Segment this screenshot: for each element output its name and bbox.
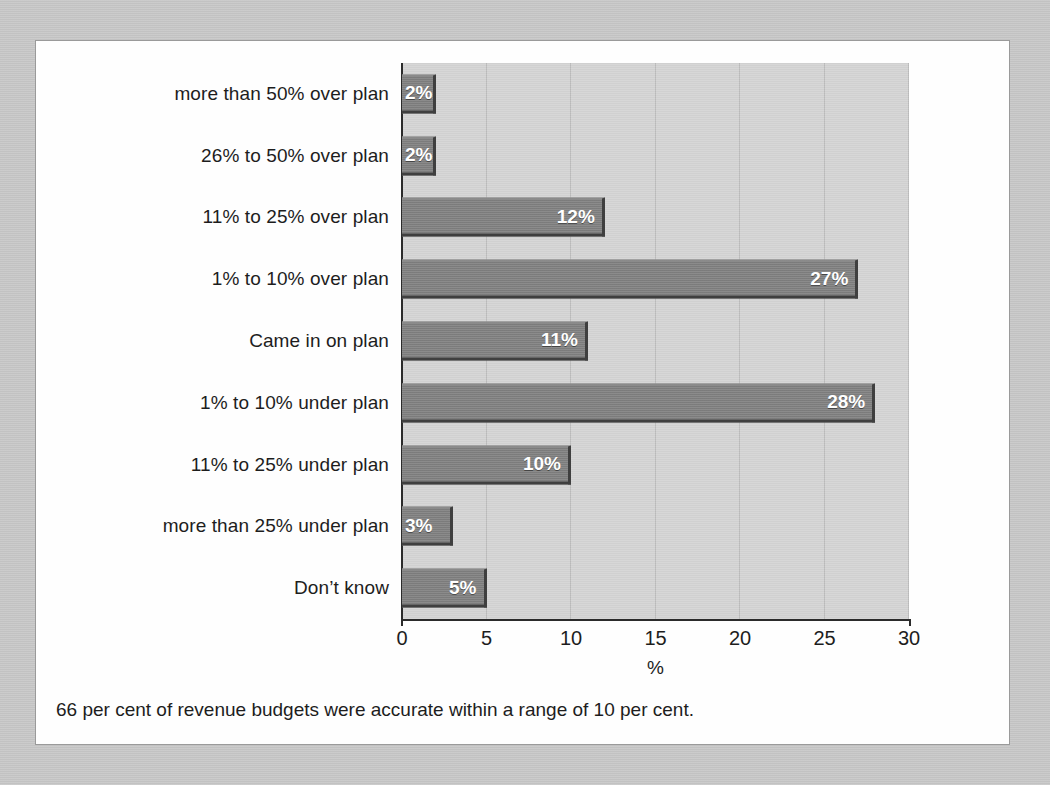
category-label: 11% to 25% under plan xyxy=(191,454,389,476)
category-label: 11% to 25% over plan xyxy=(203,206,390,228)
page-background: more than 50% over plan2%26% to 50% over… xyxy=(0,0,1050,785)
x-axis-line xyxy=(401,619,911,621)
chart-caption: 66 per cent of revenue budgets were accu… xyxy=(56,699,694,721)
bar-row: 1% to 10% under plan28% xyxy=(36,372,1009,434)
x-tick-label: 20 xyxy=(729,627,751,650)
bar-row: 11% to 25% under plan10% xyxy=(36,434,1009,496)
bar-row: 26% to 50% over plan2% xyxy=(36,125,1009,187)
bar: 2% xyxy=(402,136,436,175)
bar-value-label: 27% xyxy=(810,267,855,289)
bar-value-label: 5% xyxy=(449,576,483,598)
bar: 10% xyxy=(402,445,571,484)
bar: 3% xyxy=(402,507,453,546)
bar: 11% xyxy=(402,321,588,360)
category-label: more than 25% under plan xyxy=(163,515,389,537)
chart-card: more than 50% over plan2%26% to 50% over… xyxy=(35,40,1010,745)
x-tick-label: 30 xyxy=(898,627,920,650)
category-label: 26% to 50% over plan xyxy=(201,145,389,167)
bar: 12% xyxy=(402,198,605,237)
x-tick-label: 25 xyxy=(813,627,835,650)
bar-row: 11% to 25% over plan12% xyxy=(36,187,1009,249)
bar-row: 1% to 10% over plan27% xyxy=(36,248,1009,310)
axis-tick-mark xyxy=(401,619,403,626)
x-tick-label: 5 xyxy=(481,627,492,650)
category-label: Don’t know xyxy=(294,577,389,599)
bar-value-label: 12% xyxy=(557,205,602,227)
bar-value-label: 3% xyxy=(402,514,432,536)
bar-value-label: 10% xyxy=(523,453,568,475)
category-label: 1% to 10% over plan xyxy=(212,268,389,290)
bar-row: Don’t know5% xyxy=(36,557,1009,619)
bar: 2% xyxy=(402,74,436,113)
bar: 27% xyxy=(402,260,858,299)
bar: 28% xyxy=(402,383,875,422)
bar-value-label: 2% xyxy=(402,82,432,104)
x-tick-label: 10 xyxy=(560,627,582,650)
bar-row: more than 25% under plan3% xyxy=(36,495,1009,557)
bar-row: more than 50% over plan2% xyxy=(36,63,1009,125)
x-tick-label: 15 xyxy=(644,627,666,650)
bar-texture xyxy=(402,384,872,419)
bar-value-label: 28% xyxy=(827,391,872,413)
bar-row: Came in on plan11% xyxy=(36,310,1009,372)
x-axis-title: % xyxy=(402,657,909,679)
bar-value-label: 11% xyxy=(541,329,585,351)
category-label: Came in on plan xyxy=(249,330,389,352)
category-label: more than 50% over plan xyxy=(174,83,389,105)
bar-texture xyxy=(402,261,855,296)
category-label: 1% to 10% under plan xyxy=(200,392,389,414)
axis-tick-mark xyxy=(909,619,911,626)
bar-value-label: 2% xyxy=(402,144,432,166)
bar: 5% xyxy=(402,569,487,608)
x-tick-label: 0 xyxy=(396,627,407,650)
